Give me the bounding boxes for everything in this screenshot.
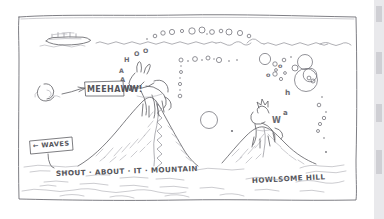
sea-horizon-line <box>40 39 351 47</box>
svg-text:O: O <box>134 50 140 58</box>
ship-silhouette <box>46 33 91 46</box>
drawing-canvas: SHOUT · ABOUT · IT · MOUNTAIN W A A H O … <box>0 0 384 219</box>
svg-text:o: o <box>278 62 283 70</box>
sound-circles-top <box>146 27 251 40</box>
ear-listening-shape <box>35 84 60 101</box>
sound-circles-inner <box>178 56 238 132</box>
svg-text:H: H <box>124 56 130 64</box>
svg-text:h: h <box>285 88 290 97</box>
sound-arc-right: W a h o o <box>266 62 290 125</box>
svg-text:O: O <box>143 47 148 54</box>
callout-waves[interactable]: ← WAVES <box>30 136 73 168</box>
hill-right <box>196 127 346 173</box>
svg-text:a: a <box>283 109 288 117</box>
sound-circles-right <box>259 53 327 153</box>
page-edge-shadow <box>374 0 384 219</box>
svg-text:o: o <box>266 71 271 79</box>
svg-text:A: A <box>119 67 124 74</box>
callout-meehaww-text: MEEHAWW! <box>87 85 143 94</box>
svg-text:W: W <box>272 116 281 125</box>
